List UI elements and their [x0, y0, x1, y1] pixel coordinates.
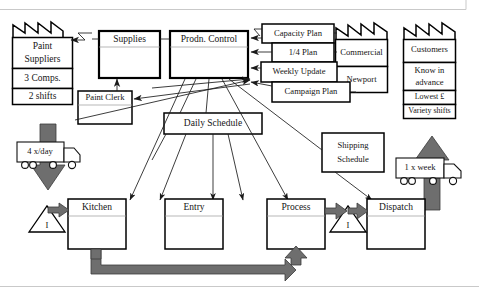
- inventory-triangle-dispatch[interactable]: I: [325, 203, 368, 232]
- customers-attr-2: Lowest £: [415, 92, 445, 101]
- customers-attr-1-line1: Know in: [415, 65, 446, 75]
- inventory-triangle-kitchen[interactable]: I: [29, 203, 69, 232]
- inventory-label-2: I: [347, 220, 350, 230]
- paint-clerk-node[interactable]: Paint Clerk: [78, 91, 132, 124]
- process-node-kitchen[interactable]: Kitchen: [68, 199, 126, 249]
- commercial-roof-icon: [336, 23, 387, 40]
- supplier-attr-1: 3 Comps.: [24, 73, 60, 83]
- material-return-push-arrow-icon: [91, 249, 296, 281]
- supplies-label: Supplies: [113, 34, 146, 44]
- shipping-schedule-line1: Shipping: [337, 140, 369, 150]
- kitchen-label: Kitchen: [82, 202, 112, 212]
- plan-campaign-label: Campaign Plan: [285, 86, 338, 96]
- commercial-name: Commercial: [340, 47, 383, 57]
- inventory-label-1: I: [46, 220, 49, 230]
- plan-capacity-node[interactable]: Capacity Plan: [262, 24, 334, 43]
- supplier-name-line2: Suppliers: [25, 54, 61, 64]
- inbound-frequency-label: 4 x/day: [27, 146, 53, 156]
- production-control-label: Prodn. Control: [181, 34, 238, 44]
- process-node-entry[interactable]: Entry: [165, 199, 223, 249]
- paint-clerk-label: Paint Clerk: [86, 92, 126, 102]
- plan-quarter-node[interactable]: 1/4 Plan: [272, 43, 334, 62]
- shipping-schedule-line2: Schedule: [337, 154, 369, 164]
- dispatch-label: Dispatch: [379, 202, 413, 212]
- supplier-attr-2: 2 shifts: [29, 91, 57, 101]
- supplies-node[interactable]: Supplies: [99, 31, 160, 78]
- customers-name: Customers: [411, 44, 448, 54]
- plan-weekly-node[interactable]: Weekly Update: [261, 62, 337, 82]
- process-node-dispatch[interactable]: Dispatch: [367, 199, 425, 249]
- customers-attr-3: Variety shifts: [408, 106, 450, 115]
- entry-label: Entry: [183, 202, 204, 212]
- production-control-node[interactable]: Prodn. Control: [170, 31, 248, 78]
- shipping-schedule-node[interactable]: Shipping Schedule: [322, 133, 384, 172]
- plan-weekly-label: Weekly Update: [273, 66, 326, 76]
- process-node-process[interactable]: Process: [267, 199, 325, 249]
- daily-schedule-node[interactable]: Daily Schedule: [164, 113, 262, 134]
- vsm-canvas: Paint Suppliers 3 Comps. 2 shifts Commer…: [0, 0, 479, 289]
- daily-schedule-label: Daily Schedule: [184, 118, 242, 128]
- customers-roof-icon: [404, 23, 455, 40]
- supplier-name-line1: Paint: [33, 41, 53, 51]
- customers-attr-1-line2: advance: [415, 77, 443, 87]
- material-return-path: [91, 246, 307, 281]
- plan-capacity-label: Capacity Plan: [274, 28, 323, 38]
- process-label: Process: [281, 202, 310, 212]
- shipping-schedule-box: [322, 133, 384, 172]
- supplier-info-arrow: [71, 33, 92, 40]
- commercial-site: Newport: [346, 74, 377, 84]
- capacity-info-zigzag: [254, 29, 262, 36]
- plan-campaign-node[interactable]: Campaign Plan: [272, 82, 350, 102]
- inbound-shipment[interactable]: 4 x/day: [17, 124, 80, 190]
- factory-roof-icon: [13, 22, 63, 38]
- customer-factory-node[interactable]: Customers Know in advance Lowest £ Varie…: [404, 23, 456, 119]
- outbound-frequency-label: 1 x week: [404, 162, 436, 172]
- prodn-to-paint-clerk-arrow: [134, 84, 250, 99]
- pull-elbow: [91, 249, 101, 259]
- plan-quarter-label: 1/4 Plan: [289, 47, 318, 57]
- value-stream-map-page: Paint Suppliers 3 Comps. 2 shifts Commer…: [0, 0, 479, 289]
- supplier-factory-node[interactable]: Paint Suppliers 3 Comps. 2 shifts: [13, 22, 73, 105]
